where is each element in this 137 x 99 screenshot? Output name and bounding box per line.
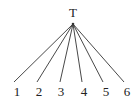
edge-to-1 <box>14 24 73 82</box>
leaf-label-6: 6 <box>124 84 131 99</box>
leaf-label-4: 4 <box>81 84 88 99</box>
leaf-label-3: 3 <box>58 84 65 99</box>
leaf-label-2: 2 <box>36 84 43 99</box>
edge-to-3 <box>60 24 73 82</box>
leaf-label-5: 5 <box>103 84 110 99</box>
edges <box>14 24 124 82</box>
tree-diagram: T 1 2 3 4 5 6 <box>0 0 137 99</box>
leaf-labels: 1 2 3 4 5 6 <box>14 84 131 99</box>
root-node-label: T <box>69 5 77 20</box>
leaf-label-1: 1 <box>14 84 21 99</box>
edge-to-2 <box>37 24 73 82</box>
